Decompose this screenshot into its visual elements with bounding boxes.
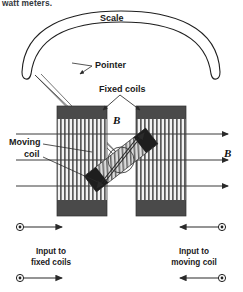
terminal-fixed-bottom: [16, 274, 62, 281]
moving-coil-label-line1: Moving: [9, 137, 41, 147]
scale-label: Scale: [100, 13, 124, 23]
moving-coil-label-line2: coil: [24, 149, 40, 159]
field-label-outer: B: [224, 147, 231, 159]
field-label-inner: B: [113, 114, 120, 126]
wattmeter-figure: watt meters.: [0, 0, 243, 292]
input-moving-label-line1: Input to: [157, 247, 231, 256]
fixed-coil-right: [136, 106, 186, 216]
pointer-label: Pointer: [95, 60, 126, 70]
input-moving-label-line2: moving coil: [157, 258, 231, 267]
fixed-coils-leader: [103, 95, 140, 110]
fixed-coil-left: [57, 106, 107, 216]
fixed-coils-label: Fixed coils: [99, 84, 146, 94]
terminal-moving-top: [180, 223, 226, 230]
input-fixed-label-line1: Input to: [14, 247, 88, 256]
input-fixed-label-line2: fixed coils: [14, 258, 88, 267]
pointer-leader: [72, 63, 92, 74]
terminal-fixed-top: [16, 223, 62, 230]
terminal-moving-bottom: [180, 274, 226, 281]
